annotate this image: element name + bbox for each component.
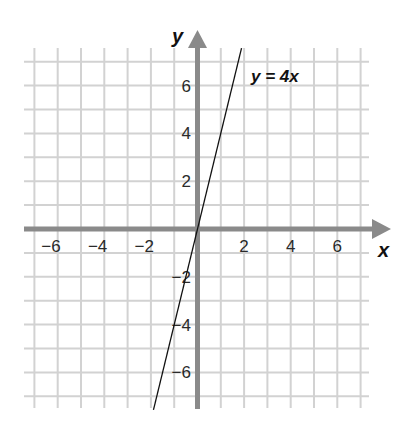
y-tick-label: −6 bbox=[172, 363, 191, 382]
y-tick-label: 6 bbox=[182, 77, 191, 96]
y-axis-label: y bbox=[171, 25, 184, 47]
y-axis-arrow-icon bbox=[188, 30, 207, 48]
x-tick-label: 2 bbox=[239, 237, 248, 256]
x-tick-label: −4 bbox=[88, 237, 107, 256]
y-tick-label: 2 bbox=[182, 172, 191, 191]
x-axis-label: x bbox=[377, 239, 390, 261]
coordinate-plane: −6−4−2246 642−2−4−6 x y y = 4x bbox=[0, 0, 413, 424]
x-tick-label: 4 bbox=[286, 237, 295, 256]
x-tick-label: −2 bbox=[135, 237, 154, 256]
y-tick-label: −2 bbox=[172, 268, 191, 287]
x-axis-arrow-icon bbox=[372, 219, 391, 239]
x-tick-label: −6 bbox=[41, 237, 60, 256]
equation-label: y = 4x bbox=[250, 67, 300, 86]
y-tick-label: 4 bbox=[182, 124, 191, 143]
x-tick-label: 6 bbox=[333, 237, 342, 256]
